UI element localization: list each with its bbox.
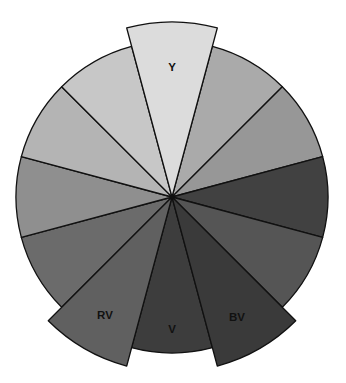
color-wheel: Y BV V RV [0, 0, 346, 383]
label-bv: BV [229, 311, 245, 323]
label-rv: RV [97, 309, 113, 321]
label-y: Y [168, 61, 176, 73]
label-v: V [168, 323, 176, 335]
wheel-hub [170, 195, 174, 199]
